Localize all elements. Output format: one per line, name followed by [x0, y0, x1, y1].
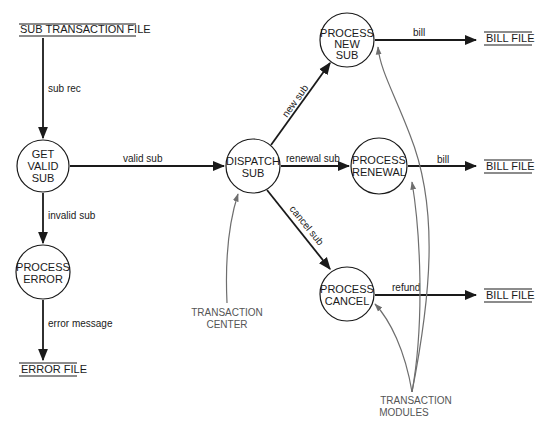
store-bill-file-renewal: BILL FILE — [484, 160, 535, 173]
flow-label: bill — [437, 154, 449, 165]
store-bill-file-new: BILL FILE — [484, 32, 535, 45]
process-label: PROCESS — [16, 261, 70, 273]
process-label: PROCESS — [352, 154, 406, 166]
flow-cancel-sub: cancel sub — [267, 190, 330, 269]
store-label: BILL FILE — [486, 32, 535, 44]
flow-refund: refund — [375, 282, 476, 295]
process-dispatch-sub: DISPATCH SUB — [226, 139, 280, 193]
flow-renewal-sub: renewal sub — [281, 153, 349, 166]
flow-invalid-sub: invalid sub — [43, 193, 96, 243]
flow-label: renewal sub — [286, 153, 340, 164]
flow-sub-rec: sub rec — [43, 38, 81, 138]
store-label: BILL FILE — [486, 160, 535, 172]
flow-new-sub: new sub — [271, 63, 330, 145]
store-error-file: ERROR FILE — [19, 363, 87, 376]
process-label: GET — [32, 148, 55, 160]
process-label: PROCESS — [320, 283, 374, 295]
store-label: BILL FILE — [486, 289, 535, 301]
annotation-transaction-modules: TRANSACTION MODULES — [375, 47, 452, 418]
store-label: SUB TRANSACTION FILE — [20, 23, 151, 35]
process-cancel: PROCESS CANCEL — [320, 267, 374, 321]
flow-label: refund — [392, 282, 420, 293]
process-renewal: PROCESS RENEWAL — [351, 138, 407, 194]
flow-label: sub rec — [48, 83, 81, 94]
store-sub-transaction-file: SUB TRANSACTION FILE — [19, 23, 151, 36]
annotation-label: MODULES — [379, 407, 429, 418]
annotation-transaction-center: TRANSACTION CENTER — [191, 194, 263, 330]
process-label: VALID — [28, 160, 59, 172]
process-label: SUB — [242, 167, 265, 179]
flow-label: bill — [413, 27, 425, 38]
annotation-label: TRANSACTION — [380, 395, 452, 406]
annotation-label: TRANSACTION — [191, 307, 263, 318]
process-new-sub: PROCESS NEW SUB — [320, 13, 374, 67]
process-label: CANCEL — [325, 295, 370, 307]
data-flow-diagram: SUB TRANSACTION FILE ERROR FILE BILL FIL… — [0, 0, 545, 427]
process-error: PROCESS ERROR — [16, 245, 70, 299]
store-bill-file-cancel: BILL FILE — [484, 289, 535, 302]
store-label: ERROR FILE — [21, 363, 87, 375]
flow-label: error message — [48, 318, 113, 329]
flow-label: valid sub — [123, 153, 163, 164]
process-label: SUB — [32, 172, 55, 184]
flow-bill-new: bill — [375, 27, 476, 40]
process-label: DISPATCH — [226, 155, 280, 167]
flow-label: new sub — [280, 82, 311, 119]
flow-error-message: error message — [43, 300, 113, 360]
process-label: RENEWAL — [352, 166, 406, 178]
flow-label: invalid sub — [48, 210, 96, 221]
process-label: SUB — [336, 49, 359, 61]
flow-valid-sub: valid sub — [70, 153, 224, 166]
annotation-label: CENTER — [206, 319, 247, 330]
process-label: ERROR — [23, 273, 63, 285]
process-get-valid-sub: GET VALID SUB — [17, 140, 69, 192]
